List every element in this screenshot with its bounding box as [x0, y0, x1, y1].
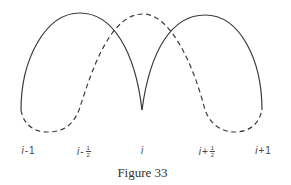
- axis-label-i-plus-1: i+1: [255, 145, 271, 156]
- axis-label-i-minus-half: i- 12: [77, 145, 91, 158]
- label-op: +: [258, 145, 264, 156]
- fraction-half: 12: [86, 145, 91, 158]
- label-var: i: [255, 145, 257, 156]
- fraction-denominator: 2: [87, 152, 90, 158]
- label-value: 1: [265, 145, 271, 156]
- fraction-denominator: 2: [211, 152, 214, 158]
- solid-arch-right: [142, 15, 262, 110]
- axis-label-i-minus-1: i-1: [21, 145, 34, 156]
- label-op: +: [202, 146, 208, 157]
- axis-label-i: i: [141, 145, 143, 156]
- solid-arch-left: [21, 13, 142, 110]
- label-var: i: [141, 145, 143, 156]
- label-value: 1: [29, 145, 35, 156]
- fraction-numerator: 1: [86, 145, 91, 152]
- fraction-half: 12: [210, 145, 215, 158]
- label-op: -: [25, 145, 28, 156]
- axis-label-i-plus-half: i+ 12: [199, 145, 215, 158]
- label-op: -: [80, 146, 83, 157]
- figure-diagram: [0, 0, 291, 185]
- label-var: i: [21, 145, 23, 156]
- label-var: i: [77, 146, 79, 157]
- figure-caption: Figure 33: [0, 165, 285, 181]
- fraction-numerator: 1: [210, 145, 215, 152]
- label-var: i: [199, 146, 201, 157]
- dashed-curve: [21, 14, 262, 132]
